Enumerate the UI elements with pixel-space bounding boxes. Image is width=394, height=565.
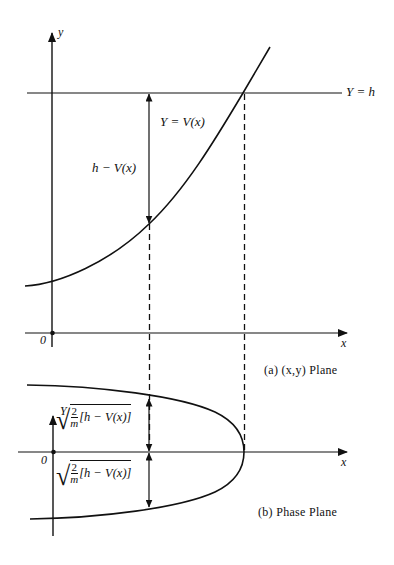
h-minus-v-label: h − V(x): [92, 160, 136, 176]
panel-a-origin-dot: [50, 331, 55, 336]
panel-a-origin-label: 0: [40, 333, 46, 348]
sqrt-symbol: √: [56, 407, 70, 434]
sqrt-body: 2 m [h − V(x)]: [70, 460, 131, 485]
y-equals-h-label: Y = h: [346, 84, 375, 100]
panel-b-origin-dot: [51, 450, 56, 455]
y-equals-v-label: Y = V(x): [160, 114, 205, 130]
sqrt-body: 2 m [h − V(x)]: [70, 404, 131, 429]
panel-b-origin-label: 0: [41, 453, 47, 468]
potential-curve: [25, 47, 270, 286]
upper-momentum-label: √ 2 m [h − V(x)]: [56, 408, 131, 434]
panel-a-y-axis-label: y: [58, 25, 63, 40]
sqrt-symbol: √: [56, 463, 70, 490]
fraction: 2 m: [70, 462, 78, 485]
panel-a-x-axis-label: x: [341, 336, 346, 351]
panel-a-caption: (a) (x,y) Plane: [264, 363, 337, 378]
fraction: 2 m: [70, 406, 78, 429]
panel-b-x-axis-label: x: [341, 455, 346, 470]
panel-b-caption: (b) Phase Plane: [258, 505, 337, 520]
lower-momentum-label: √ 2 m [h − V(x)]: [56, 464, 131, 490]
panel-a: [25, 33, 347, 452]
